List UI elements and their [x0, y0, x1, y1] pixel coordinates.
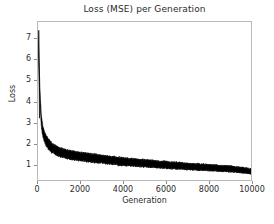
x-tick-mark [209, 181, 210, 184]
x-axis-label: Generation [37, 196, 252, 205]
y-tick-label: 2 [26, 138, 31, 149]
x-tick-label: 10000 [239, 185, 264, 194]
initial-loss-spike [39, 30, 40, 118]
x-tick-label: 8000 [199, 185, 219, 194]
loss-curve-series [38, 22, 251, 180]
x-tick-mark [123, 181, 124, 184]
x-tick-label: 2000 [70, 185, 90, 194]
plot-area [37, 21, 252, 181]
loss-noise-band [38, 30, 251, 174]
x-tick-label: 0 [34, 185, 39, 194]
y-tick-label: 3 [26, 117, 31, 128]
y-tick-label: 7 [26, 32, 31, 43]
chart-title: Loss (MSE) per Generation [37, 4, 252, 14]
y-axis-label: Loss [8, 74, 17, 114]
y-tick-label: 1 [26, 159, 31, 170]
x-tick-label: 6000 [156, 185, 176, 194]
x-tick-mark [252, 181, 253, 184]
x-tick-label: 4000 [113, 185, 133, 194]
x-tick-mark [80, 181, 81, 184]
y-tick-label: 4 [26, 96, 31, 107]
y-tick-label: 5 [26, 74, 31, 85]
chart-figure: Loss (MSE) per Generation 1234567 Loss 0… [0, 0, 274, 224]
x-tick-mark [166, 181, 167, 184]
x-tick-mark [37, 181, 38, 184]
y-axis-ticks: 1234567 [0, 0, 37, 202]
y-tick-label: 6 [26, 53, 31, 64]
